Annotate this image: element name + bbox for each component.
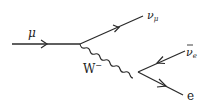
electron-line	[138, 72, 183, 95]
muon-neutrino-line	[80, 16, 143, 44]
feynman-diagram: μ νμ W− νe e	[0, 0, 210, 103]
electron-antineutrino-label: νe	[186, 46, 197, 60]
muon-label: μ	[28, 26, 36, 40]
w-boson-label: W−	[83, 61, 102, 76]
electron-label: e	[187, 89, 194, 103]
muon-neutrino-label: νμ	[147, 9, 159, 23]
muon-line	[12, 40, 80, 48]
electron-antineutrino-line	[138, 51, 185, 72]
